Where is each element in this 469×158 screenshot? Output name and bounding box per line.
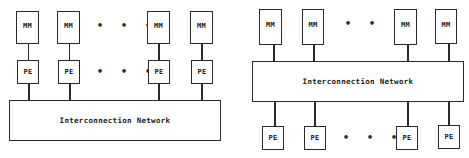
processing-element-label: PE <box>403 134 412 142</box>
connector-line <box>28 44 30 60</box>
memory-module-box: MM <box>57 11 80 44</box>
connector-line <box>448 101 450 126</box>
ellipsis-processing-elements: • • • <box>343 133 403 143</box>
memory-module-box: MM <box>435 9 457 44</box>
interconnection-network-label: Interconnection Network <box>60 116 171 125</box>
connector-line <box>28 84 30 100</box>
memory-module-box: MM <box>394 9 417 45</box>
connector-line <box>69 84 71 100</box>
processing-element-box: PE <box>304 126 326 150</box>
connector-line <box>407 102 409 126</box>
memory-module-label: MM <box>23 22 32 30</box>
processing-element-box: PE <box>438 125 460 149</box>
connector-line <box>201 44 203 60</box>
connector-line <box>69 44 71 60</box>
processing-element-label: PE <box>155 68 164 76</box>
memory-module-label: MM <box>266 21 275 29</box>
connector-line <box>407 45 409 61</box>
connector-line <box>274 102 276 126</box>
memory-module-label: MM <box>309 21 318 29</box>
processing-element-box: PE <box>262 126 284 150</box>
processing-element-box: PE <box>17 60 39 84</box>
memory-module-label: MM <box>154 22 163 30</box>
memory-module-label: MM <box>197 22 206 30</box>
processing-element-box: PE <box>396 126 418 150</box>
diagram-local-memory: MM MM • • • MM MM PE PE • • • PE PE Inte… <box>0 0 234 158</box>
processing-element-box: PE <box>191 60 213 84</box>
connector-line <box>314 102 316 126</box>
processing-element-label: PE <box>198 68 207 76</box>
interconnection-network-label: Interconnection Network <box>303 77 414 86</box>
processing-element-label: PE <box>311 134 320 142</box>
memory-module-box: MM <box>16 11 39 44</box>
connector-line <box>273 45 275 61</box>
processing-element-box: PE <box>58 60 80 84</box>
memory-module-label: MM <box>64 22 73 30</box>
processing-element-label: PE <box>65 68 74 76</box>
processing-element-label: PE <box>445 133 454 141</box>
processing-element-label: PE <box>24 68 33 76</box>
memory-module-box: MM <box>259 9 282 45</box>
interconnection-network-box: Interconnection Network <box>9 100 221 141</box>
memory-module-box: MM <box>302 9 324 45</box>
diagram-shared-memory: MM MM • • • MM MM Interconnection Networ… <box>235 0 469 158</box>
memory-module-label: MM <box>401 21 410 29</box>
memory-module-box: MM <box>190 11 213 44</box>
interconnection-network-box: Interconnection Network <box>252 61 464 102</box>
connector-line <box>158 44 160 60</box>
memory-module-box: MM <box>147 11 170 44</box>
processing-element-box: PE <box>148 60 170 84</box>
connector-line <box>313 45 315 61</box>
connector-line <box>158 84 160 100</box>
connector-line <box>201 84 203 100</box>
memory-module-label: MM <box>442 21 451 29</box>
connector-line <box>448 44 450 61</box>
processing-element-label: PE <box>269 134 278 142</box>
